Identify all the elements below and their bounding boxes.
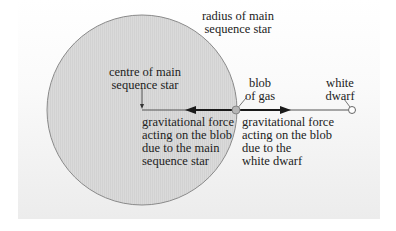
force-dwarf-label: gravitational force acting on the blob d… xyxy=(242,116,334,168)
radius-label-line2: sequence star xyxy=(194,23,282,36)
white-dwarf xyxy=(349,107,356,114)
centre-label-line2: sequence star xyxy=(100,79,190,92)
blob-label: blob of gas xyxy=(240,77,280,103)
centre-label: centre of main sequence star xyxy=(100,66,190,92)
white-dwarf-label-line2: dwarf xyxy=(320,90,360,103)
force-dwarf-label-line4: white dwarf xyxy=(242,155,334,168)
white-dwarf-label: white dwarf xyxy=(320,77,360,103)
radius-label: radius of main sequence star xyxy=(194,10,282,36)
force-main-label: gravitational force acting on the blob d… xyxy=(142,116,234,168)
force-main-label-line4: sequence star xyxy=(142,155,234,168)
blob-of-gas xyxy=(232,106,240,114)
force-arrow-dwarf-head-icon xyxy=(280,106,291,114)
blob-label-line2: of gas xyxy=(240,90,280,103)
